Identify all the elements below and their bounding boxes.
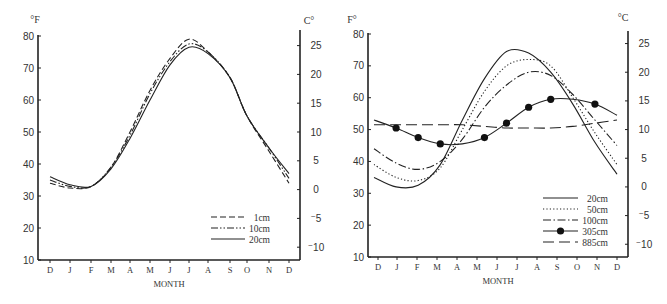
month-label: N [266,265,272,275]
month-label: J [495,262,499,272]
month-label: A [205,265,212,275]
series-line-20cm [50,47,289,188]
legend-label: 50cm [587,205,609,215]
c-tick-label: 15 [638,95,650,106]
month-label: A [534,262,541,272]
x-axis-title: MONTH [482,276,513,286]
unit-celsius: C° [304,15,315,26]
month-label: J [515,262,519,272]
series-marker [591,100,598,107]
month-label: M [433,262,441,272]
c-tick-label: ⁻5 [639,210,650,221]
legend-label: 20cm [249,235,271,245]
month-label: D [47,265,53,275]
month-label: N [594,262,600,272]
legend-label: 10cm [249,224,271,234]
month-label: F [89,265,94,275]
f-tick-label: 70 [23,63,35,74]
month-label: M [146,265,154,275]
month-label: O [574,262,580,272]
c-tick-label: 20 [638,67,650,78]
series-line-20cm [374,49,617,188]
series-marker [503,120,510,127]
c-tick-label: ⁻10 [636,239,653,250]
month-label: J [395,262,399,272]
c-tick-label: 0 [313,184,319,195]
right-chart: 10203040506070802520151050⁻5⁻10DJFMAMJJA… [347,12,652,286]
month-label: J [187,265,191,275]
month-label: M [473,262,481,272]
series-marker [481,134,488,141]
c-tick-label: 10 [638,124,650,135]
month-label: D [614,262,620,272]
f-tick-label: 60 [23,95,35,106]
f-tick-label: 10 [23,255,35,266]
c-tick-label: 25 [310,40,322,51]
month-label: J [168,265,172,275]
month-label: A [127,265,134,275]
legend-label: 885cm [582,238,608,248]
series-line-885cm [374,120,617,128]
series-marker [392,124,399,131]
f-tick-label: 60 [353,92,365,103]
f-tick-label: 40 [23,159,35,170]
c-tick-label: 5 [313,155,319,166]
f-tick-label: 20 [23,223,35,234]
c-tick-label: 25 [638,38,650,49]
unit-fahrenheit: °F [30,14,40,25]
legend-label: 20cm [587,194,609,204]
month-label: O [244,265,250,275]
legend-label: 305cm [582,227,608,237]
c-tick-label: 10 [310,127,322,138]
soil-temperature-charts: 10203040506070802520151050⁻5⁻10DJFMAMJJA… [0,0,667,304]
month-label: S [228,265,233,275]
legend-label: 1cm [254,213,271,223]
series-marker [547,96,554,103]
f-tick-label: 50 [353,124,365,135]
month-label: J [68,265,72,275]
f-tick-label: 70 [353,60,365,71]
series-line-100cm [374,71,617,169]
c-tick-label: 0 [641,181,647,192]
series-line-1cm [50,39,289,189]
c-tick-label: 15 [310,98,322,109]
month-label: A [454,262,461,272]
c-tick-label: ⁻5 [311,213,322,224]
series-line-50cm [374,60,617,182]
month-label: S [555,262,560,272]
legend-label: 100cm [582,216,608,226]
f-tick-label: 80 [353,29,365,40]
f-tick-label: 30 [353,188,365,199]
x-axis-title: MONTH [153,279,184,289]
month-label: F [415,262,420,272]
f-tick-label: 30 [23,191,35,202]
f-tick-label: 40 [353,156,365,167]
series-marker [415,134,422,141]
f-tick-label: 10 [353,252,365,263]
f-tick-label: 50 [23,127,35,138]
unit-celsius: °C [618,12,629,23]
left-chart: 10203040506070802520151050⁻5⁻10DJFMAMJJA… [23,14,325,289]
unit-fahrenheit: F° [347,14,357,25]
month-label: D [286,265,292,275]
month-label: D [375,262,381,272]
c-tick-label: ⁻10 [308,242,325,253]
c-tick-label: 20 [310,69,322,80]
f-tick-label: 20 [353,220,365,231]
f-tick-label: 80 [23,31,35,42]
month-label: M [107,265,115,275]
series-marker [437,140,444,147]
c-tick-label: 5 [641,153,647,164]
series-marker [525,104,532,111]
series-line-305cm [374,99,617,145]
